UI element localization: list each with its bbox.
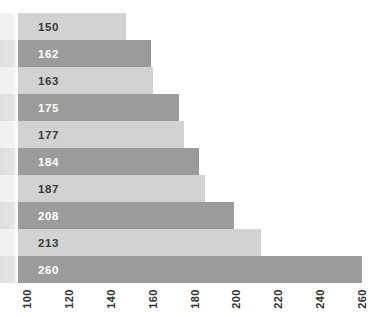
bar-chart: 150162163175177184187208213260 100120140… bbox=[0, 0, 379, 317]
bar: 163 bbox=[18, 67, 153, 94]
bar-row: 175 bbox=[0, 94, 379, 121]
x-tick-label: 140 bbox=[105, 289, 117, 309]
bar-fade-strip bbox=[0, 148, 18, 175]
bar-row: 208 bbox=[0, 202, 379, 229]
bar-value-label: 177 bbox=[18, 129, 59, 141]
bar-value-label: 184 bbox=[18, 156, 59, 168]
bar-value-label: 175 bbox=[18, 102, 59, 114]
bar-fade-strip bbox=[0, 13, 18, 40]
bar-value-label: 208 bbox=[18, 210, 59, 222]
bar: 260 bbox=[18, 256, 362, 283]
bar-row: 260 bbox=[0, 256, 379, 283]
x-tick-label: 160 bbox=[147, 289, 159, 309]
bar-value-label: 260 bbox=[18, 264, 59, 276]
x-tick-label: 260 bbox=[356, 289, 368, 309]
x-tick-label: 240 bbox=[314, 289, 326, 309]
bar: 184 bbox=[18, 148, 199, 175]
bar: 208 bbox=[18, 202, 234, 229]
x-tick-label: 120 bbox=[63, 289, 75, 309]
bar-fade-strip bbox=[0, 94, 18, 121]
bar-row: 150 bbox=[0, 13, 379, 40]
bar-fade-strip bbox=[0, 40, 18, 67]
x-tick-label: 220 bbox=[272, 289, 284, 309]
bar-value-label: 150 bbox=[18, 21, 59, 33]
x-tick-label: 200 bbox=[230, 289, 242, 309]
bar-value-label: 163 bbox=[18, 75, 59, 87]
bar-fade-strip bbox=[0, 229, 18, 256]
bar-row: 162 bbox=[0, 40, 379, 67]
bar-value-label: 187 bbox=[18, 183, 59, 195]
bar-fade-strip bbox=[0, 67, 18, 94]
bar: 162 bbox=[18, 40, 151, 67]
bar-value-label: 162 bbox=[18, 48, 59, 60]
bar: 213 bbox=[18, 229, 261, 256]
bar: 187 bbox=[18, 175, 205, 202]
bar-fade-strip bbox=[0, 175, 18, 202]
bar-row: 213 bbox=[0, 229, 379, 256]
bar-row: 163 bbox=[0, 67, 379, 94]
bar-fade-strip bbox=[0, 202, 18, 229]
x-tick-label: 180 bbox=[189, 289, 201, 309]
bar: 177 bbox=[18, 121, 184, 148]
x-tick-label: 100 bbox=[21, 289, 33, 309]
bar-value-label: 213 bbox=[18, 237, 59, 249]
bar-fade-strip bbox=[0, 121, 18, 148]
bar-row: 177 bbox=[0, 121, 379, 148]
bar: 175 bbox=[18, 94, 179, 121]
bar-row: 184 bbox=[0, 148, 379, 175]
bar-fade-strip bbox=[0, 256, 18, 283]
bar: 150 bbox=[18, 13, 126, 40]
bar-row: 187 bbox=[0, 175, 379, 202]
